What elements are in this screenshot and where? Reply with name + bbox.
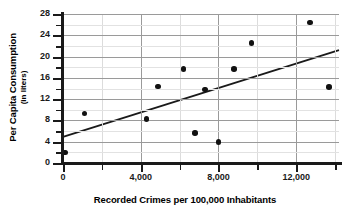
gridline-horizontal	[63, 99, 339, 100]
gridline-horizontal	[63, 25, 339, 26]
gridline-horizontal	[63, 78, 339, 79]
gridline-horizontal	[63, 152, 339, 153]
y-axis-tick	[56, 25, 62, 27]
x-axis-tick-label: 0	[33, 172, 93, 182]
y-axis-title-main: Per Capita Consumption	[7, 33, 18, 142]
plot-area	[63, 14, 339, 163]
y-axis-tick	[53, 142, 62, 144]
x-axis-tick	[296, 164, 298, 172]
y-axis-tick	[56, 67, 62, 69]
gridline-horizontal	[63, 110, 339, 111]
y-axis-title: Per Capita Consumption (in liters)	[0, 0, 30, 175]
y-axis-tick	[56, 46, 62, 48]
x-axis-tick-label: 8,000	[188, 172, 248, 182]
y-axis-tick	[56, 152, 62, 154]
y-axis-tick	[53, 163, 62, 165]
x-axis-tick-label: 4,000	[111, 172, 171, 182]
gridline-horizontal	[63, 120, 339, 121]
data-point	[192, 130, 198, 136]
data-point	[231, 66, 237, 72]
data-point	[181, 66, 187, 72]
x-axis-tick	[257, 164, 259, 170]
y-axis-tick	[53, 99, 62, 101]
gridline-horizontal	[63, 142, 339, 143]
scatter-plot-figure: Per Capita Consumption (in liters) Recor…	[0, 0, 345, 209]
y-axis-tick-label: 12	[4, 93, 50, 103]
y-axis-tick	[56, 131, 62, 133]
y-axis-tick-label: 8	[4, 114, 50, 124]
y-axis-tick-label: 24	[4, 29, 50, 39]
data-point	[144, 116, 150, 122]
gridline-horizontal	[63, 57, 339, 58]
x-axis-tick	[63, 164, 65, 172]
x-axis-title: Recorded Crimes per 100,000 Inhabitants	[30, 189, 340, 207]
gridline-horizontal	[63, 14, 339, 15]
data-point	[307, 20, 313, 26]
y-axis-tick	[56, 89, 62, 91]
y-axis-tick	[53, 120, 62, 122]
data-point	[155, 84, 161, 90]
y-axis-tick-label: 4	[4, 136, 50, 146]
y-axis-tick-label: 16	[4, 72, 50, 82]
y-axis-tick	[53, 57, 62, 59]
y-axis-tick	[53, 78, 62, 80]
x-axis-tick	[141, 164, 143, 172]
x-axis-tick-label: 12,000	[266, 172, 326, 182]
data-point	[202, 87, 208, 93]
gridline-horizontal	[63, 67, 339, 68]
x-axis-tick	[180, 164, 182, 170]
y-axis-tick	[53, 35, 62, 37]
y-axis-tick-label: 20	[4, 51, 50, 61]
y-axis-tick-label: 0	[4, 157, 50, 167]
y-axis-tick	[56, 110, 62, 112]
x-axis-tick	[102, 164, 104, 170]
gridline-horizontal	[63, 89, 339, 90]
x-axis-title-text: Recorded Crimes per 100,000 Inhabitants	[94, 194, 276, 205]
x-axis-tick	[218, 164, 220, 172]
data-point	[326, 84, 332, 90]
gridline-horizontal	[63, 131, 339, 132]
gridline-horizontal	[63, 46, 339, 47]
y-axis-title-sub: (in liters)	[19, 33, 28, 142]
data-point	[249, 40, 255, 46]
x-axis-tick	[335, 164, 337, 170]
y-axis-tick	[53, 14, 62, 16]
y-axis-tick-label: 28	[4, 8, 50, 18]
gridline-horizontal	[63, 35, 339, 36]
